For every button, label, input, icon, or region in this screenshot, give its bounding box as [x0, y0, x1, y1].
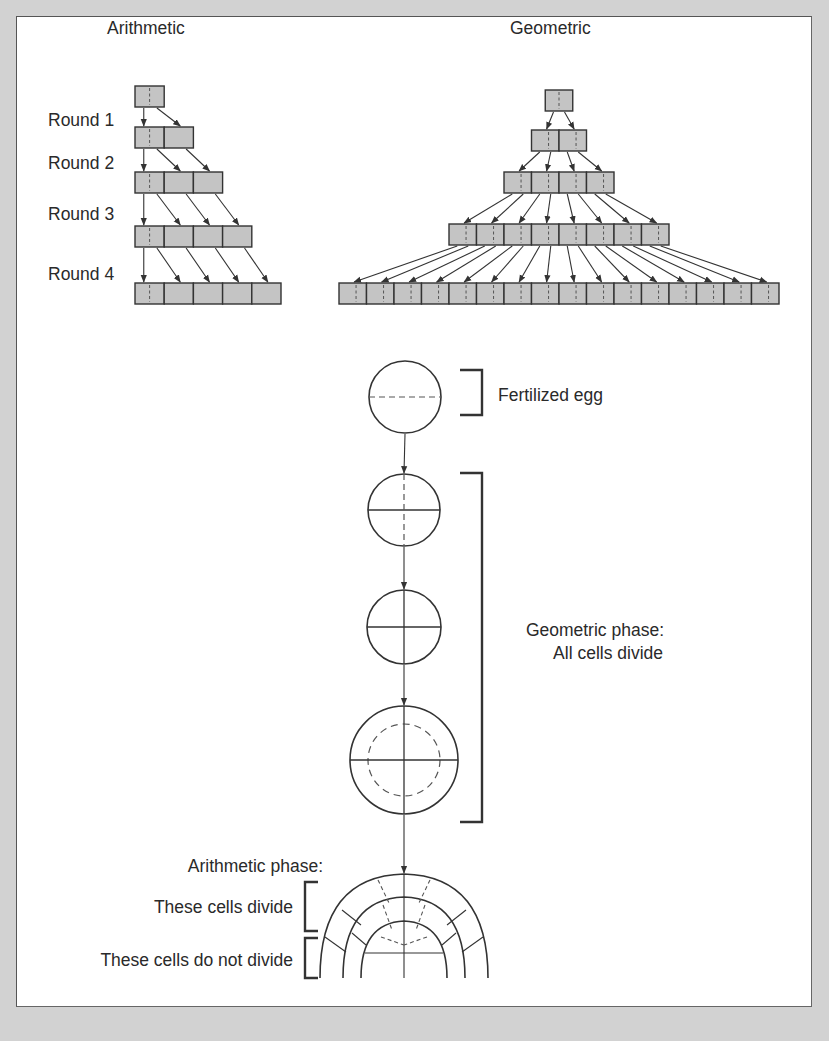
cell: [724, 283, 752, 304]
cell: [193, 283, 222, 304]
cell: [394, 283, 422, 304]
these-cells-do-not-divide-label: These cells do not divide: [40, 952, 293, 970]
fertilized-egg-label: Fertilized egg: [498, 387, 603, 405]
these-cells-divide-label: These cells divide: [80, 899, 293, 917]
arrow: [354, 246, 457, 282]
cell: [477, 283, 505, 304]
geometric-growth-diagram: [339, 90, 779, 304]
arrow: [578, 152, 601, 171]
arrow: [157, 248, 180, 282]
embryo-stage-3: [350, 706, 458, 814]
cell: [252, 283, 281, 304]
cell: [504, 283, 532, 304]
cell: [422, 283, 450, 304]
non-dividing-cells-bracket: [305, 938, 318, 978]
arrow: [547, 112, 554, 129]
cell: [339, 283, 367, 304]
cell: [477, 224, 505, 245]
arithmetic-phase-embryo: [320, 874, 488, 978]
cell: [164, 226, 193, 247]
cell-boundary: [442, 933, 456, 945]
geometric-phase-label-line2: All cells divide: [498, 645, 663, 663]
geometric-phase-label-line1: Geometric phase:: [498, 622, 664, 640]
geometric-row-3: [449, 224, 669, 245]
cell: [532, 224, 560, 245]
cell-division-diagram: [0, 0, 829, 1041]
arrow: [567, 246, 574, 282]
cell: [669, 283, 697, 304]
embryo-stage-1: [368, 474, 440, 546]
cell: [193, 226, 222, 247]
geometric-row-2: [504, 172, 614, 193]
round-1-label: Round 1: [48, 112, 114, 130]
arrow: [464, 194, 512, 223]
cell-boundary: [325, 937, 346, 952]
arrow: [567, 152, 574, 171]
arrow: [661, 246, 767, 282]
round-2-label: Round 2: [48, 155, 114, 173]
cell: [532, 172, 560, 193]
cell: [752, 283, 780, 304]
diagram-stage: Arithmetic Geometric Round 1 Round 2 Rou…: [0, 0, 829, 1041]
arrow: [567, 194, 574, 223]
cell: [164, 172, 193, 193]
cell: [614, 224, 642, 245]
arrow: [215, 194, 238, 225]
arrow: [565, 112, 575, 129]
arithmetic-row-4: [135, 283, 281, 304]
cell: [559, 130, 587, 151]
arrow: [382, 246, 469, 282]
arrow: [186, 194, 209, 225]
arrow: [409, 246, 485, 282]
arrow: [595, 194, 629, 223]
geometric-row-0: [545, 90, 573, 111]
embryo-stage-0: [369, 361, 441, 433]
arrow: [157, 108, 180, 126]
cell: [587, 224, 615, 245]
geometric-row-1: [532, 130, 587, 151]
cell: [223, 283, 252, 304]
arrow: [186, 248, 209, 282]
arrow: [404, 434, 405, 473]
arithmetic-row-1: [135, 127, 193, 148]
arrow: [519, 152, 540, 171]
arithmetic-growth-diagram: [135, 86, 281, 304]
cell: [642, 283, 670, 304]
brackets: [305, 370, 482, 978]
cell-division-dashed: [404, 937, 427, 945]
arrow: [186, 149, 209, 171]
geometric-phase-bracket: [460, 473, 482, 822]
cell: [587, 283, 615, 304]
round-3-label: Round 3: [48, 206, 114, 224]
dividing-cells-bracket: [305, 882, 318, 931]
cell: [559, 283, 587, 304]
arithmetic-row-0: [135, 86, 164, 107]
fertilized-egg-bracket: [460, 370, 482, 415]
embryo-stage-2: [367, 590, 441, 664]
arrow: [245, 248, 268, 282]
arrow: [547, 246, 551, 282]
arithmetic-row-2: [135, 172, 223, 193]
arrow: [633, 246, 711, 282]
cell: [559, 224, 587, 245]
cell-boundary: [352, 933, 366, 945]
arrow: [437, 246, 496, 282]
cell: [193, 172, 222, 193]
arrow: [519, 246, 540, 282]
cell: [164, 283, 193, 304]
cell-division-dashed: [381, 937, 404, 945]
geometric-row-4: [339, 283, 779, 304]
arrow: [606, 194, 657, 223]
cell: [559, 172, 587, 193]
cell: [532, 283, 560, 304]
arrow: [519, 194, 540, 223]
cell: [164, 127, 193, 148]
arithmetic-title: Arithmetic: [107, 20, 185, 38]
cell-boundary: [462, 937, 483, 952]
cell: [697, 283, 725, 304]
arrow: [157, 194, 180, 225]
geometric-title: Geometric: [510, 20, 591, 38]
cell: [504, 224, 532, 245]
cell: [449, 224, 477, 245]
cell: [587, 172, 615, 193]
